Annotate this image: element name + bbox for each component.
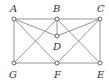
point-E (98, 61, 102, 65)
point-label-C: C (97, 3, 105, 14)
point-label-G: G (9, 69, 17, 80)
point-label-D: D (52, 41, 61, 52)
geometry-diagram: ABCDGFE (0, 0, 109, 83)
point-label-A: A (9, 3, 17, 14)
point-C (98, 17, 102, 21)
segment-CD (57, 19, 100, 36)
labels-group: ABCDGFE (9, 3, 105, 80)
point-label-E: E (96, 69, 105, 80)
point-F (55, 61, 59, 65)
point-B (55, 17, 59, 21)
point-D (55, 34, 59, 38)
point-A (12, 17, 16, 21)
segment-AD (14, 19, 57, 36)
point-label-F: F (53, 69, 62, 80)
point-G (12, 61, 16, 65)
point-label-B: B (52, 3, 60, 14)
